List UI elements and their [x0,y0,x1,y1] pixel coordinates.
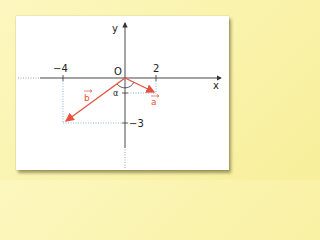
origin-label: O [114,66,122,77]
tick-label-y-neg3: −3 [129,118,144,129]
vector-a-label: a [151,95,159,108]
tick-label-x-neg4: −4 [53,63,68,74]
angle-label: α [113,89,118,98]
vector-b-label: b [84,90,92,104]
coordinate-diagram: y x O −4 2 −3 α b a [0,0,241,180]
svg-text:b: b [84,93,90,103]
tick-label-x-2: 2 [153,63,159,74]
svg-text:a: a [151,97,157,107]
vector-b [66,78,125,121]
guide-lines [63,81,156,123]
vector-a [125,78,154,92]
angle-arc [117,82,134,88]
y-axis-label: y [112,23,118,34]
x-axis-label: x [213,80,219,91]
